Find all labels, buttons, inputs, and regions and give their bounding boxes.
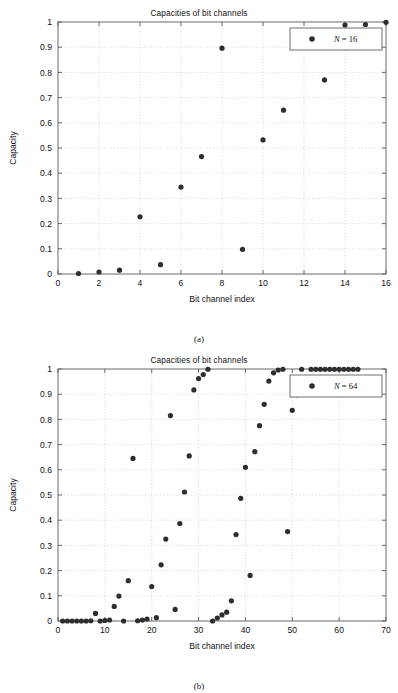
y-tick-label: 0 [47,616,52,626]
data-point [219,612,224,617]
data-point [112,604,117,609]
x-tick-label: 0 [56,278,61,288]
data-point [238,496,243,501]
data-point [65,618,70,623]
y-tick-label: 0.6 [40,118,52,128]
data-point [240,247,245,252]
data-point [224,610,229,615]
data-point [266,378,271,383]
data-point [121,618,126,623]
y-tick-label: 0.9 [40,389,52,399]
x-tick-label: 12 [299,278,309,288]
data-point [290,408,295,413]
y-tick-label: 0.4 [40,168,52,178]
x-tick-label: 20 [147,625,157,635]
data-point [201,372,206,377]
data-point [229,598,234,603]
data-point [98,618,103,623]
data-point [79,618,84,623]
y-axis-title: Capacity [8,478,18,512]
plot-area-a: 024681012141600.10.20.30.40.50.60.70.80.… [0,0,398,320]
data-point [299,367,304,372]
y-tick-label: 1 [47,17,52,27]
data-point [117,268,122,273]
data-point [149,584,154,589]
y-tick-label: 0.7 [40,440,52,450]
y-tick-label: 0.6 [40,465,52,475]
data-point [215,615,220,620]
data-point [205,367,210,372]
y-tick-label: 0.1 [40,244,52,254]
data-point [130,456,135,461]
x-tick-label: 0 [56,625,61,635]
data-point [346,367,351,372]
x-tick-label: 60 [334,625,344,635]
x-tick-label: 70 [381,625,391,635]
figure-page: Capacities of bit channels 0246810121416… [0,0,398,693]
legend-marker-icon [309,383,315,389]
data-point [363,22,368,27]
data-point [337,367,342,372]
data-point [154,615,159,620]
x-tick-label: 8 [220,278,225,288]
x-axis-title: Bit channel index [189,294,255,304]
y-tick-label: 0.5 [40,490,52,500]
y-tick-label: 0.8 [40,68,52,78]
figure-b: Capacities of bit channels 0102030405060… [0,347,398,693]
x-tick-label: 2 [97,278,102,288]
x-tick-label: 50 [288,625,298,635]
data-point [163,537,168,542]
data-point [210,618,215,623]
data-point [135,618,140,623]
data-point [383,20,388,25]
y-tick-label: 0.8 [40,415,52,425]
data-point [168,413,173,418]
data-point [342,22,347,27]
data-point [260,137,265,142]
data-point [158,562,163,567]
data-point [102,618,107,623]
scatter-plot-b: 01020304050607000.10.20.30.40.50.60.70.8… [0,347,398,667]
data-point [351,367,356,372]
y-axis-title: Capacity [8,131,18,165]
data-point [74,618,79,623]
y-tick-label: 0.2 [40,566,52,576]
data-point [233,532,238,537]
y-tick-label: 0.3 [40,194,52,204]
figure-caption-a: (a) [0,334,398,344]
y-tick-label: 0 [47,269,52,279]
data-point [318,367,323,372]
data-point [276,367,281,372]
data-point [252,449,257,454]
x-tick-label: 16 [381,278,391,288]
x-tick-label: 14 [340,278,350,288]
data-point [93,611,98,616]
data-point [322,367,327,372]
y-tick-label: 0.5 [40,143,52,153]
data-point [173,607,178,612]
data-point [187,453,192,458]
data-point [313,367,318,372]
y-tick-label: 0.4 [40,515,52,525]
data-point [332,367,337,372]
legend-marker-icon [309,36,315,42]
data-point [285,529,290,534]
data-point [69,618,74,623]
data-point [88,618,93,623]
figure-a: Capacities of bit channels 0246810121416… [0,0,398,346]
data-point [178,184,183,189]
x-axis-title: Bit channel index [189,641,255,651]
x-tick-label: 4 [138,278,143,288]
x-tick-label: 40 [241,625,251,635]
data-point [322,77,327,82]
scatter-plot-a: 024681012141600.10.20.30.40.50.60.70.80.… [0,0,398,320]
x-tick-label: 30 [194,625,204,635]
data-point [262,402,267,407]
legend-label: N= 64 [333,381,358,391]
data-point [182,489,187,494]
x-tick-label: 10 [258,278,268,288]
data-point [271,370,276,375]
data-point [248,573,253,578]
data-point [355,367,360,372]
y-tick-label: 0.1 [40,591,52,601]
